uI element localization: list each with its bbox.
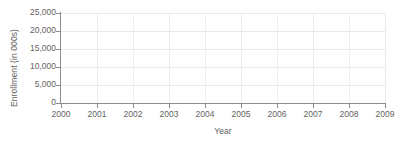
series-layer (61, 13, 385, 103)
gridline-vertical (349, 13, 350, 103)
plot-area (61, 13, 385, 103)
y-axis-tick (56, 67, 61, 68)
x-axis-tick (349, 104, 350, 108)
x-axis-title: Year (61, 126, 385, 136)
gridline-vertical (385, 13, 386, 103)
x-axis-tick-label: 2001 (77, 110, 117, 119)
gridline-horizontal (61, 85, 385, 86)
y-axis-tick (56, 85, 61, 86)
gridline-horizontal (61, 31, 385, 32)
gridline-vertical (133, 13, 134, 103)
y-axis-line (60, 12, 61, 104)
x-axis-tick (61, 104, 62, 108)
gridline-horizontal (61, 49, 385, 50)
x-axis-tick-label: 2007 (293, 110, 333, 119)
y-axis-tick (56, 13, 61, 14)
x-axis-tick (97, 104, 98, 108)
x-axis-tick (241, 104, 242, 108)
gridline-vertical (97, 13, 98, 103)
chart-figure: Enrollment (in 000s) Year 25,00020,00015… (0, 0, 405, 144)
x-axis-tick (385, 104, 386, 108)
y-axis-tick-label: 25,000 (16, 8, 56, 17)
y-axis-tick-label: 15,000 (16, 44, 56, 53)
gridline-vertical (169, 13, 170, 103)
gridline-vertical (241, 13, 242, 103)
y-axis-tick (56, 49, 61, 50)
gridline-vertical (277, 13, 278, 103)
y-axis-tick-label: 10,000 (16, 62, 56, 71)
x-axis-tick (169, 104, 170, 108)
y-axis-tick-label: 20,000 (16, 26, 56, 35)
x-axis-tick-label: 2009 (365, 110, 405, 119)
x-axis-tick-label: 2006 (257, 110, 297, 119)
x-axis-tick (313, 104, 314, 108)
x-axis-tick (205, 104, 206, 108)
x-axis-line (60, 103, 386, 104)
gridline-vertical (313, 13, 314, 103)
y-axis-tick-label: 5,000 (16, 80, 56, 89)
x-axis-tick (133, 104, 134, 108)
x-axis-tick-label: 2003 (149, 110, 189, 119)
gridline-vertical (205, 13, 206, 103)
y-axis-tick (56, 31, 61, 32)
x-axis-tick-label: 2008 (329, 110, 369, 119)
x-axis-tick-label: 2002 (113, 110, 153, 119)
x-axis-tick (277, 104, 278, 108)
x-axis-tick-label: 2004 (185, 110, 225, 119)
gridline-horizontal (61, 13, 385, 14)
x-axis-tick-label: 2005 (221, 110, 261, 119)
x-axis-tick-label: 2000 (41, 110, 81, 119)
gridline-horizontal (61, 67, 385, 68)
y-axis-tick-label: 0 (16, 98, 56, 107)
